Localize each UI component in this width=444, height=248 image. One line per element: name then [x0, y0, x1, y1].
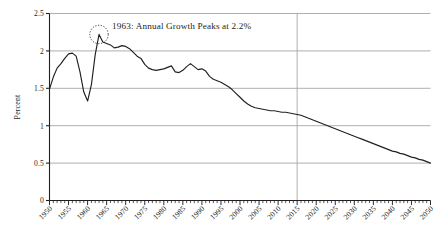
x-tick-label: 1970 [113, 204, 130, 221]
x-tick-label: 2020 [303, 204, 320, 221]
y-tick-label: 2.5 [34, 9, 44, 18]
y-tick-label: 2 [40, 47, 44, 56]
x-tick-label: 1965 [94, 204, 111, 221]
x-axis-major-ticks [50, 201, 431, 206]
data-series-line [50, 34, 431, 163]
x-tick-label: 1980 [151, 204, 168, 221]
y-tick-label: 0 [40, 196, 44, 205]
x-tick-label: 1955 [56, 204, 73, 221]
x-tick-label: 2005 [246, 204, 263, 221]
y-tick-label: 1 [40, 122, 44, 131]
x-tick-label: 2030 [342, 204, 359, 221]
x-tick-label: 2040 [380, 204, 397, 221]
annotation-label: 1963: Annual Growth Peaks at 2.2% [112, 21, 251, 31]
x-tick-label: 2015 [284, 204, 301, 221]
x-tick-label: 2000 [227, 204, 244, 221]
x-tick-label: 1975 [132, 204, 149, 221]
annotation-text: 1963: Annual Growth Peaks at 2.2% [112, 21, 251, 31]
x-tick-label: 2045 [399, 204, 416, 221]
x-tick-label: 2050 [418, 204, 435, 221]
y-tick-label: 1.5 [34, 84, 44, 93]
y-axis-title-text: Percent [13, 94, 22, 119]
chart-canvas: 00.511.522.5 195019551960196519701975198… [0, 0, 444, 248]
x-tick-label: 1995 [208, 204, 225, 221]
y-axis-tick-labels: 00.511.522.5 [34, 9, 44, 205]
x-tick-label: 2035 [361, 204, 378, 221]
x-tick-label: 1985 [170, 204, 187, 221]
x-tick-label: 2025 [322, 204, 339, 221]
y-axis-title: Percent [13, 94, 22, 119]
x-tick-label: 2010 [265, 204, 282, 221]
x-axis-tick-labels: 1950195519601965197019751980198519901995… [37, 204, 435, 221]
x-tick-label: 1950 [37, 204, 54, 221]
growth-rate-line-chart: 00.511.522.5 195019551960196519701975198… [0, 0, 444, 248]
x-tick-label: 1960 [75, 204, 92, 221]
x-tick-label: 1990 [189, 204, 206, 221]
y-tick-label: 0.5 [34, 159, 44, 168]
horizontal-gridlines [50, 14, 431, 164]
